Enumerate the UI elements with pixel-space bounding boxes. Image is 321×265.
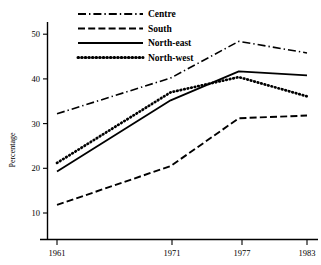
legend-label-north-east: North-east	[148, 38, 192, 48]
y-tick-label-30: 30	[32, 119, 41, 129]
x-tick-group: 1961 1971 1977 1983	[49, 240, 316, 259]
legend-label-centre: Centre	[148, 9, 176, 19]
x-tick-label-1961: 1961	[49, 248, 66, 258]
chart-legend: CentreSouthNorth-eastNorth-west	[78, 9, 194, 63]
series-line-south	[57, 116, 307, 205]
series-group	[57, 41, 307, 205]
x-tick-label-1977: 1977	[234, 248, 251, 258]
y-tick-label-20: 20	[32, 163, 41, 173]
x-tick-label-1983: 1983	[299, 248, 316, 258]
y-tick-label-50: 50	[32, 29, 41, 39]
y-tick-group: 10 20 30 40 50	[32, 29, 48, 218]
chart-canvas: 10 20 30 40 50 1961 1971 1977 1983 Perce…	[0, 0, 321, 265]
legend-label-south: South	[148, 24, 172, 34]
legend-label-north-west: North-west	[148, 53, 194, 63]
line-chart: 10 20 30 40 50 1961 1971 1977 1983 Perce…	[0, 0, 321, 265]
series-line-north-west	[57, 77, 307, 163]
x-tick-label-1971: 1971	[164, 248, 181, 258]
y-axis-title: Percentage	[8, 132, 17, 168]
y-tick-label-40: 40	[32, 74, 41, 84]
y-tick-label-10: 10	[32, 208, 41, 218]
